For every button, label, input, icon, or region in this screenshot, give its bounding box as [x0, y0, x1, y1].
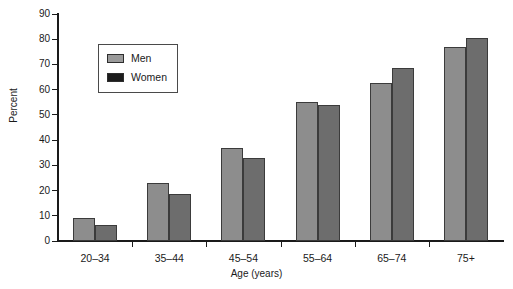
y-axis-tick-label: 10	[0, 211, 50, 221]
x-axis-category-label: 65–74	[355, 252, 429, 264]
x-axis-tick	[355, 241, 356, 247]
x-axis-category-label: 20–34	[58, 252, 132, 264]
y-axis-tick-label: 30	[0, 160, 50, 170]
bar-women-0	[95, 225, 117, 241]
y-axis-tick-label: 70	[0, 59, 50, 69]
bar-women-3	[318, 105, 340, 241]
legend: Men Women	[98, 44, 178, 93]
x-axis-category-label: 35–44	[132, 252, 206, 264]
bar-men-5	[444, 47, 466, 241]
bar-women-4	[392, 68, 414, 241]
x-axis-title: Age (years)	[0, 268, 513, 279]
x-axis-category-label: 75+	[429, 252, 503, 264]
bar-chart: Percent 0102030405060708090 20–3435–4445…	[0, 0, 513, 289]
bar-women-5	[466, 38, 488, 241]
y-axis-tick-label: 50	[0, 110, 50, 120]
x-axis-tick	[206, 241, 207, 247]
y-axis-tick-label: 90	[0, 9, 50, 19]
bar-women-2	[243, 158, 265, 241]
y-axis-title: Percent	[8, 66, 19, 146]
bar-men-3	[296, 102, 318, 241]
bar-men-4	[370, 83, 392, 241]
bar-men-0	[73, 218, 95, 241]
men-swatch-icon	[107, 54, 124, 63]
x-axis-tick	[132, 241, 133, 247]
legend-label-men: Men	[131, 53, 151, 64]
x-axis-tick	[429, 241, 430, 247]
x-axis-category-label: 55–64	[281, 252, 355, 264]
x-axis-tick	[281, 241, 282, 247]
legend-item-men: Men	[107, 53, 151, 64]
y-axis-tick-label: 60	[0, 85, 50, 95]
y-axis-tick-label: 0	[0, 236, 50, 246]
x-axis-category-label: 45–54	[206, 252, 280, 264]
y-axis-tick-label: 40	[0, 135, 50, 145]
bar-women-1	[169, 194, 191, 241]
legend-label-women: Women	[131, 72, 167, 83]
bar-men-1	[147, 183, 169, 241]
women-swatch-icon	[107, 73, 124, 82]
y-axis-tick-label: 20	[0, 186, 50, 196]
legend-item-women: Women	[107, 72, 167, 83]
bar-men-2	[221, 148, 243, 241]
y-axis-tick-label: 80	[0, 34, 50, 44]
